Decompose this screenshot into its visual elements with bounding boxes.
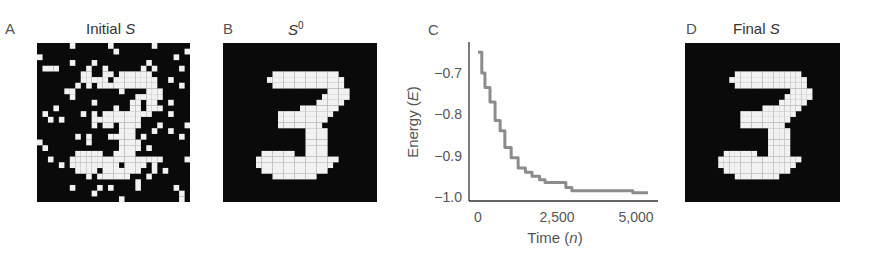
panel-d-letter: D xyxy=(686,20,697,37)
x-axis-label: Time (n) xyxy=(527,229,582,246)
x-tick-labels: 02,5005,000 xyxy=(474,209,654,225)
panel-a-letter: A xyxy=(5,20,15,37)
panel-a-title-prefix: Initial xyxy=(86,20,125,37)
svg-text:−0.8: −0.8 xyxy=(434,106,462,122)
svg-text:5,000: 5,000 xyxy=(618,209,653,225)
svg-text:0: 0 xyxy=(474,209,482,225)
energy-chart: C −0.7−0.8−0.9−1.0 02,5005,000 Energy (E… xyxy=(400,0,680,255)
panel-d-title-prefix: Final xyxy=(733,20,770,37)
panel-b-title-var: S xyxy=(288,21,298,38)
panel-b-letter: B xyxy=(223,20,233,37)
panel-d-title: Final S xyxy=(733,20,780,37)
y-tick-labels: −0.7−0.8−0.9−1.0 xyxy=(434,65,462,205)
panel-a-title: Initial S xyxy=(86,20,135,37)
stored-pattern-image xyxy=(223,43,377,202)
svg-text:−0.7: −0.7 xyxy=(434,65,462,81)
panel-b-title-sup: 0 xyxy=(298,20,304,31)
svg-text:−1.0: −1.0 xyxy=(434,189,462,205)
initial-state-image xyxy=(37,43,190,202)
panel-a-title-var: S xyxy=(125,20,135,37)
svg-text:−0.9: −0.9 xyxy=(434,148,462,164)
panel-c-letter: C xyxy=(428,21,439,38)
energy-curve xyxy=(478,52,648,193)
y-axis-label: Energy (E) xyxy=(404,86,421,158)
svg-text:2,500: 2,500 xyxy=(539,209,574,225)
panel-b-title: S0 xyxy=(288,20,304,38)
final-state-image xyxy=(685,43,840,202)
panel-d-title-var: S xyxy=(770,20,780,37)
energy-chart-svg: C −0.7−0.8−0.9−1.0 02,5005,000 Energy (E… xyxy=(400,0,680,255)
